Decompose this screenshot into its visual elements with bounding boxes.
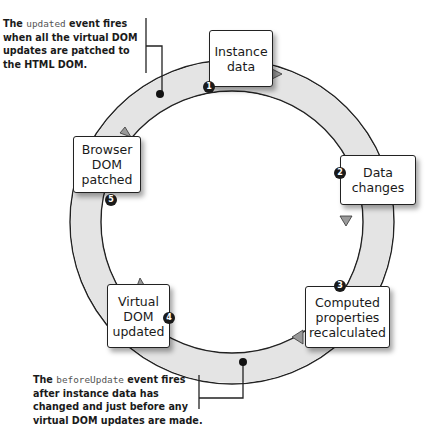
callout-dot-updated	[156, 90, 164, 98]
step-badge-4: 4	[163, 312, 175, 324]
code-before-update: beforeUpdate	[56, 374, 124, 385]
code-updated: updated	[26, 18, 66, 29]
step-box-instance-data: Instance data	[209, 30, 273, 87]
step-label: Data changes	[352, 165, 405, 195]
step-label: Computed properties recalculated	[309, 295, 386, 340]
step-badge-1: 1	[203, 81, 215, 93]
step-label: Virtual DOM updated	[113, 294, 165, 339]
step-box-computed-properties: Computed properties recalculated	[305, 286, 390, 348]
note-before-update-event: The beforeUpdate event fires after insta…	[33, 373, 203, 427]
step-badge-5: 5	[105, 194, 117, 206]
step-label: Instance data	[214, 44, 267, 74]
step-box-virtual-dom-updated: Virtual DOM updated	[107, 284, 170, 348]
callout-dot-before-update	[239, 358, 247, 366]
step-box-data-changes: Data changes	[340, 155, 416, 205]
step-badge-2: 2	[334, 167, 346, 179]
step-box-browser-dom-patched: Browser DOM patched	[73, 136, 141, 193]
step-label: Browser DOM patched	[82, 142, 133, 187]
note-updated-event: The updated event fires when all the vir…	[3, 17, 137, 71]
step-badge-3: 3	[334, 280, 346, 292]
